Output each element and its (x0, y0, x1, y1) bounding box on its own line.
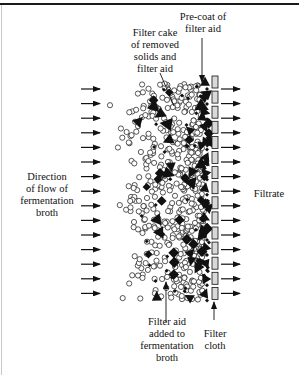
precoat-particle-icon (200, 77, 210, 86)
solid-particle-icon (140, 90, 145, 95)
solid-particle-icon (158, 144, 163, 149)
solid-particle-icon (165, 105, 170, 110)
filter-aid-diamond-icon (157, 196, 167, 206)
solid-particle-icon (152, 160, 157, 165)
filter-cloth (212, 76, 218, 299)
solid-particle-icon (131, 219, 136, 224)
solid-particle-icon (136, 198, 141, 203)
cloth-segment (212, 136, 218, 148)
solid-particle-icon (146, 223, 151, 228)
solid-particle-icon (127, 110, 132, 115)
solid-particle-icon (178, 251, 183, 256)
solid-particle-icon (176, 234, 181, 239)
filter-aid-small-icon (154, 122, 158, 126)
solid-particle-icon (166, 242, 171, 247)
solid-particle-icon (170, 219, 175, 224)
cloth-segment (212, 182, 218, 194)
filtrate-arrows (221, 89, 240, 293)
cloth-segment (212, 76, 218, 88)
solid-particle-icon (160, 95, 165, 100)
solid-particle-icon (127, 281, 132, 286)
solid-particle-icon (160, 276, 165, 281)
solid-particle-icon (167, 146, 172, 151)
solid-particle-icon (136, 227, 141, 232)
solid-particle-icon (130, 273, 135, 278)
cloth-segment (212, 106, 218, 118)
solid-particle-icon (175, 152, 180, 157)
solid-particle-icon (117, 203, 122, 208)
solid-particle-icon (137, 175, 142, 180)
solid-particle-icon (195, 150, 200, 155)
solid-particle-icon (189, 92, 194, 97)
solid-particle-icon (172, 227, 177, 232)
solid-particle-icon (143, 261, 148, 266)
solid-particle-icon (146, 174, 151, 179)
solid-particle-icon (128, 198, 133, 203)
solid-particle-icon (138, 296, 143, 301)
cloth-segment (212, 91, 218, 103)
solid-particle-icon (151, 136, 156, 141)
precoat-small-icon (205, 193, 209, 197)
solid-particle-icon (178, 284, 183, 289)
solid-particle-icon (137, 257, 142, 262)
label-direction-of-flow: Direction of flow of fermentation broth (12, 171, 82, 219)
solid-particle-icon (174, 181, 179, 186)
solid-particle-icon (152, 194, 157, 199)
solid-particle-icon (148, 150, 153, 155)
solid-particle-icon (135, 91, 140, 96)
solid-particle-icon (154, 258, 159, 263)
cloth-segment (212, 212, 218, 224)
solid-particle-icon (195, 297, 200, 302)
solid-particle-icon (152, 225, 157, 230)
solid-particle-icon (151, 264, 156, 269)
solid-particle-icon (172, 284, 177, 289)
solid-particle-icon (120, 135, 125, 140)
precoat-small-icon (205, 147, 209, 151)
figure-frame: Pre-coat of filter aid Filter cake of re… (0, 0, 299, 375)
solid-particle-icon (134, 107, 139, 112)
solid-particle-icon (177, 120, 182, 125)
solid-particle-icon (154, 250, 159, 255)
solid-particle-icon (191, 284, 196, 289)
solid-particle-icon (144, 195, 149, 200)
solid-particle-icon (163, 259, 168, 264)
solid-particle-icon (175, 141, 180, 146)
solid-particle-icon (132, 161, 137, 166)
solid-particle-icon (183, 85, 188, 90)
cloth-segment (212, 272, 218, 284)
cloth-segment (212, 257, 218, 269)
solid-particle-icon (186, 102, 191, 107)
solid-particle-icon (189, 201, 194, 206)
solid-particle-icon (140, 275, 145, 280)
solid-particle-icon (189, 228, 194, 233)
cloth-segment (212, 227, 218, 239)
cloth-segment (212, 197, 218, 209)
solid-particle-icon (140, 136, 145, 141)
cloth-segment (212, 167, 218, 179)
solid-particle-icon (157, 263, 162, 268)
solid-particle-icon (144, 208, 149, 213)
cloth-segment (212, 121, 218, 133)
solid-particle-icon (179, 293, 184, 298)
cloth-segment (212, 152, 218, 164)
solid-particle-icon (167, 188, 172, 193)
particle-field (107, 77, 217, 304)
solid-particle-icon (180, 207, 185, 212)
filter-aid-small-icon (185, 123, 189, 127)
solid-particle-icon (129, 133, 134, 138)
solid-particle-icon (118, 126, 123, 131)
solid-particle-icon (182, 275, 187, 280)
solid-particle-icon (140, 82, 145, 87)
solid-particle-icon (177, 86, 182, 91)
solid-particle-icon (194, 88, 199, 93)
solid-particle-icon (158, 126, 163, 131)
solid-particle-icon (142, 217, 147, 222)
solid-particle-icon (120, 296, 125, 301)
cloth-segment (212, 287, 218, 299)
label-filter-cake: Filter cake of removed solids and filter… (122, 27, 188, 75)
inflow-arrows (81, 89, 100, 293)
solid-particle-icon (166, 209, 171, 214)
solid-particle-icon (143, 113, 148, 118)
label-filter-aid-added: Filter aid added to fermentation broth (135, 316, 199, 364)
precoat-small-icon (205, 283, 209, 287)
